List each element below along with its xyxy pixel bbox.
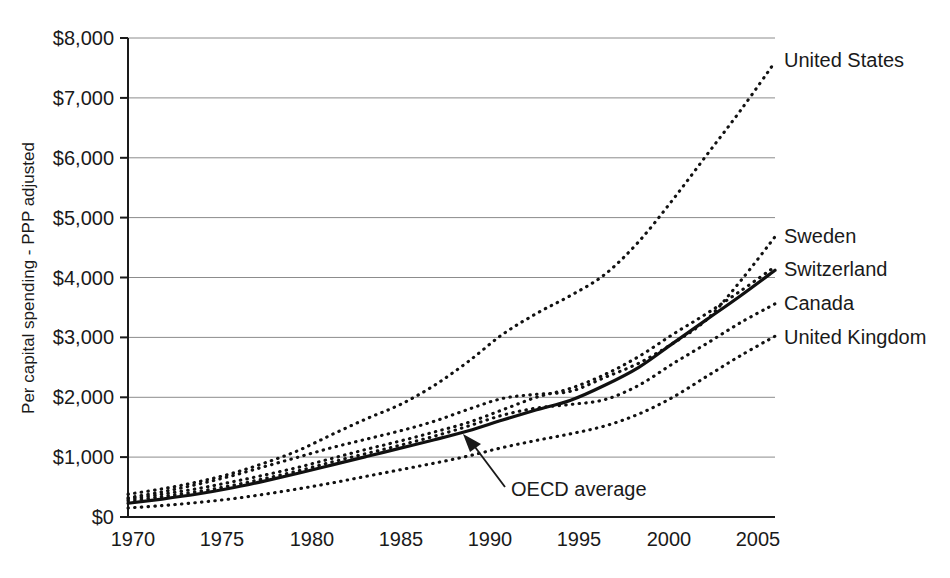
chart-container: $8,000 $7,000 $6,000 $5,000 $4,000 $3,00… <box>0 0 950 578</box>
x-tick-label-1975: 1975 <box>200 528 245 550</box>
y-tick-label-0: $0 <box>92 506 114 528</box>
line-chart: $8,000 $7,000 $6,000 $5,000 $4,000 $3,00… <box>0 0 950 578</box>
series-label-canada: Canada <box>784 292 855 314</box>
y-tick-label-3000: $3,000 <box>53 326 114 348</box>
x-tick-labels: 1970 1975 1980 1985 1990 1995 2000 2005 <box>111 528 781 550</box>
y-tick-marks <box>120 38 128 517</box>
x-tick-label-1970: 1970 <box>111 528 156 550</box>
series-label-switzerland: Switzerland <box>784 258 887 280</box>
y-axis-title: Per capital spending - PPP adjusted <box>19 142 38 414</box>
x-tick-label-2000: 2000 <box>647 528 692 550</box>
y-tick-label-8000: $8,000 <box>53 27 114 49</box>
y-tick-label-2000: $2,000 <box>53 386 114 408</box>
x-tick-label-1985: 1985 <box>379 528 424 550</box>
y-tick-label-5000: $5,000 <box>53 207 114 229</box>
x-tick-label-2005: 2005 <box>736 528 781 550</box>
x-tick-label-1980: 1980 <box>290 528 335 550</box>
annotation-label-oecd-average: OECD average <box>511 478 647 500</box>
y-tick-label-7000: $7,000 <box>53 87 114 109</box>
x-tick-label-1990: 1990 <box>468 528 513 550</box>
series-label-sweden: Sweden <box>784 225 856 247</box>
y-tick-label-1000: $1,000 <box>53 446 114 468</box>
series-end-labels: United States Sweden Switzerland Canada … <box>784 49 926 348</box>
y-tick-label-4000: $4,000 <box>53 267 114 289</box>
series-label-united-states: United States <box>784 49 904 71</box>
y-tick-label-6000: $6,000 <box>53 147 114 169</box>
y-tick-labels: $8,000 $7,000 $6,000 $5,000 $4,000 $3,00… <box>53 27 114 528</box>
x-tick-label-1995: 1995 <box>557 528 602 550</box>
series-label-united-kingdom: United Kingdom <box>784 326 926 348</box>
